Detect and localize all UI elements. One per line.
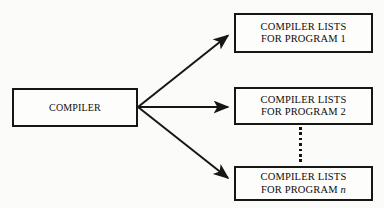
arrow-to-program-n: [138, 107, 228, 178]
ellipsis-dot: [299, 138, 302, 141]
node-program-1-prefix: FOR PROGRAM: [261, 33, 340, 44]
node-program-n-index: n: [341, 184, 346, 195]
node-program-2-line-1: COMPILER LISTS: [261, 94, 347, 106]
ellipsis-dot: [299, 154, 302, 157]
diagram-canvas: COMPILER COMPILER LISTS FOR PROGRAM 1 CO…: [0, 0, 384, 208]
node-program-2-line-2: FOR PROGRAM 2: [261, 106, 346, 118]
ellipsis-dot: [299, 127, 302, 130]
ellipsis-dot: [299, 159, 302, 162]
node-program-1-index: 1: [341, 33, 346, 44]
node-compiler-label: COMPILER: [49, 102, 101, 114]
node-program-n-line-2: FOR PROGRAM n: [261, 184, 346, 196]
node-program-1-line-2: FOR PROGRAM 1: [261, 33, 346, 45]
ellipsis-dot: [299, 132, 302, 135]
vertical-ellipsis-icon: [296, 127, 305, 162]
node-program-n-prefix: FOR PROGRAM: [261, 184, 340, 195]
node-compiler-lists-program-2[interactable]: COMPILER LISTS FOR PROGRAM 2: [234, 87, 373, 125]
node-program-2-prefix: FOR PROGRAM: [261, 106, 340, 117]
ellipsis-dot: [299, 143, 302, 146]
node-compiler-lists-program-n[interactable]: COMPILER LISTS FOR PROGRAM n: [234, 166, 373, 201]
node-program-2-index: 2: [341, 106, 346, 117]
node-program-1-line-1: COMPILER LISTS: [261, 21, 347, 33]
node-compiler-lists-program-1[interactable]: COMPILER LISTS FOR PROGRAM 1: [234, 13, 373, 53]
node-program-n-line-1: COMPILER LISTS: [261, 171, 347, 183]
node-compiler[interactable]: COMPILER: [12, 88, 138, 127]
ellipsis-dot: [299, 149, 302, 152]
arrow-to-program-1: [138, 36, 228, 108]
